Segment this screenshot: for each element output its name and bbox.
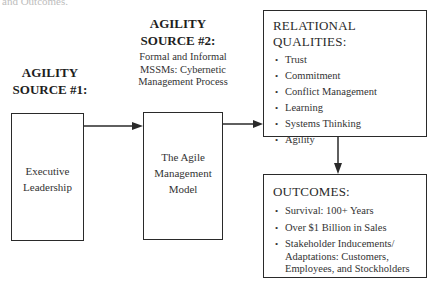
arrow-model-to-relational (223, 120, 263, 128)
connector-arrows (0, 0, 436, 288)
arrow-leadership-to-model (84, 122, 143, 130)
arrow-relational-to-outcomes (334, 137, 342, 174)
